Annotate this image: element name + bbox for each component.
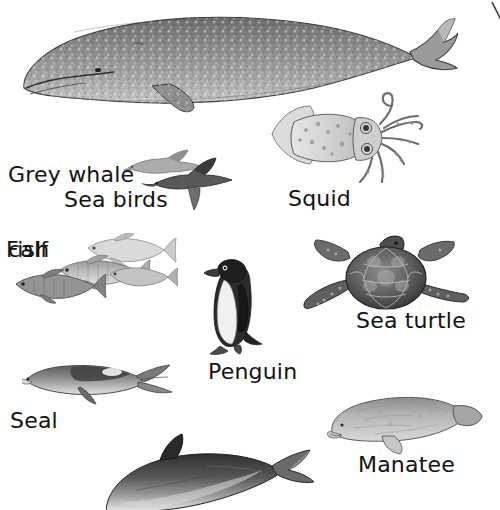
label-grey-whale-calf: Grey whale calf: [8, 112, 134, 312]
label-sea-birds: Sea birds: [64, 187, 168, 212]
label-sea-turtle: Sea turtle: [356, 308, 466, 333]
figure-penguin: [200, 258, 264, 356]
label-penguin: Penguin: [208, 359, 297, 384]
label-seal: Seal: [10, 408, 58, 433]
figure-squid: [266, 92, 424, 186]
figure-manatee: [320, 390, 484, 456]
label-grey-whale-calf-line1: Grey whale: [8, 162, 134, 187]
label-squid: Squid: [288, 186, 351, 211]
figure-dolphin: [106, 432, 322, 510]
label-fish: Fish: [6, 237, 49, 262]
figure-seal: [22, 358, 174, 406]
label-manatee: Manatee: [358, 452, 455, 477]
illustration-page: Grey whale calf Sea birds Squid Fish Sea…: [0, 0, 500, 510]
